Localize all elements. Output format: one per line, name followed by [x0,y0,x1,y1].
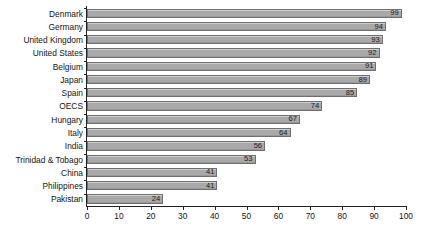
bar-row: Japan89 [87,73,405,86]
bar-value-label: 89 [359,76,367,84]
category-label: Denmark [49,9,83,18]
bar-value-label: 53 [244,155,252,163]
category-label: Japan [60,75,83,84]
bar-value-label: 99 [390,9,398,17]
tick-mark [87,206,88,210]
tick-mark [247,206,248,210]
tick-label: 10 [114,211,123,221]
bar-value-label: 56 [254,142,262,150]
category-label: Hungary [51,115,83,124]
bar: 41 [87,168,217,177]
tick-mark [278,206,279,210]
category-label: Belgium [53,62,83,71]
tick-mark [342,206,343,210]
tick-mark [374,206,375,210]
category-label: China [61,168,83,177]
tick-label: 50 [242,211,251,221]
bar: 41 [87,181,217,190]
bar-row: OECS74 [87,100,405,113]
bar-value-label: 91 [365,62,373,70]
tick-label: 20 [146,211,155,221]
bar-row: Italy64 [87,126,405,139]
bar: 85 [87,88,357,97]
tick-mark [183,206,184,210]
bar-value-label: 41 [206,182,214,190]
bar-value-label: 41 [206,168,214,176]
bar-value-label: 85 [346,89,354,97]
bar: 56 [87,141,265,150]
bar-value-label: 93 [371,36,379,44]
bar: 64 [87,128,291,137]
bar: 24 [87,194,163,203]
bar-chart: Denmark99Germany94United Kingdom93United… [0,0,421,237]
tick-label: 80 [338,211,347,221]
bar-row: Spain85 [87,87,405,100]
bar-row: Trinidad & Tobago53 [87,153,405,166]
bar-row: Denmark99 [87,7,405,20]
tick-label: 60 [274,211,283,221]
bar: 91 [87,62,376,71]
bar-value-label: 67 [289,115,297,123]
bar-row: United States92 [87,47,405,60]
plot-area: Denmark99Germany94United Kingdom93United… [87,7,405,206]
bar-row: Hungary67 [87,113,405,126]
tick-label: 100 [399,211,413,221]
bar: 89 [87,75,370,84]
category-label: Philippines [42,182,83,191]
tick-mark [310,206,311,210]
bar: 74 [87,101,322,110]
bar: 99 [87,9,402,18]
bar-rows: Denmark99Germany94United Kingdom93United… [87,7,405,206]
bar-row: Germany94 [87,20,405,33]
tick-mark [215,206,216,210]
bar-row: China41 [87,166,405,179]
bar-row: Philippines41 [87,179,405,192]
category-label: United Kingdom [23,36,83,45]
category-label: Italy [68,129,83,138]
tick-label: 90 [369,211,378,221]
tick-label: 40 [210,211,219,221]
tick-mark [119,206,120,210]
bar-value-label: 74 [311,102,319,110]
bar: 93 [87,35,383,44]
bar-value-label: 92 [368,49,376,57]
category-label: Germany [49,22,83,31]
bar-value-label: 64 [279,129,287,137]
tick-label: 30 [178,211,187,221]
bar: 92 [87,48,380,57]
bar-value-label: 24 [152,195,160,203]
x-axis-ticks: 0102030405060708090100 [87,206,406,234]
category-label: Trinidad & Tobago [15,155,83,164]
bar: 53 [87,155,256,164]
bar-value-label: 94 [374,23,382,31]
tick-label: 70 [306,211,315,221]
bar: 67 [87,115,300,124]
tick-mark [406,206,407,210]
category-label: Pakistan [51,195,83,204]
category-label: OECS [59,102,83,111]
category-label: Spain [62,89,83,98]
bar: 94 [87,22,386,31]
bar-row: Belgium91 [87,60,405,73]
tick-mark [151,206,152,210]
bar-row: United Kingdom93 [87,34,405,47]
tick-label: 0 [85,211,90,221]
bar-row: India56 [87,140,405,153]
category-label: United States [33,49,83,58]
category-label: India [65,142,83,151]
bar-row: Pakistan24 [87,193,405,206]
